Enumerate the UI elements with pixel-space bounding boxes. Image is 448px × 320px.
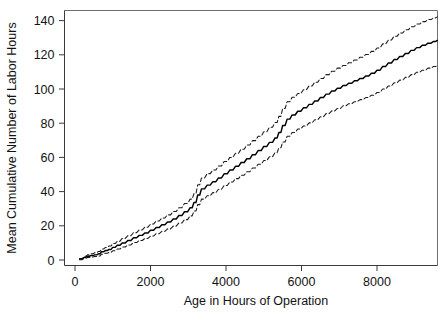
series-mean-cumulative-function [80, 40, 438, 259]
y-tick-label: 80 [41, 117, 55, 131]
y-axis-ticks [59, 21, 65, 260]
y-tick-label: 60 [41, 151, 55, 165]
chart-figure: 02000400060008000 020406080100120140 Age… [0, 0, 448, 320]
data-series-group [80, 17, 438, 260]
y-tick-label: 140 [34, 14, 55, 28]
x-tick-label: 0 [72, 275, 79, 289]
series-lower-confidence-limit [80, 65, 438, 259]
x-axis-tick-labels: 02000400060008000 [72, 275, 391, 289]
series-upper-confidence-limit [80, 17, 438, 259]
x-tick-label: 2000 [137, 275, 165, 289]
plot-canvas: 02000400060008000 020406080100120140 Age… [0, 0, 448, 320]
x-tick-label: 6000 [288, 275, 316, 289]
x-axis-title: Age in Hours of Operation [184, 294, 329, 308]
y-axis-tick-labels: 020406080100120140 [34, 14, 55, 267]
y-tick-label: 100 [34, 83, 55, 97]
x-tick-label: 8000 [363, 275, 391, 289]
y-tick-label: 120 [34, 48, 55, 62]
x-tick-label: 4000 [212, 275, 240, 289]
plot-frame [65, 11, 438, 266]
y-tick-label: 40 [41, 185, 55, 199]
x-axis-ticks [75, 266, 377, 272]
y-tick-label: 20 [41, 219, 55, 233]
y-axis-title: Mean Cumulative Number of Labor Hours [5, 22, 19, 253]
y-tick-label: 0 [48, 254, 55, 268]
